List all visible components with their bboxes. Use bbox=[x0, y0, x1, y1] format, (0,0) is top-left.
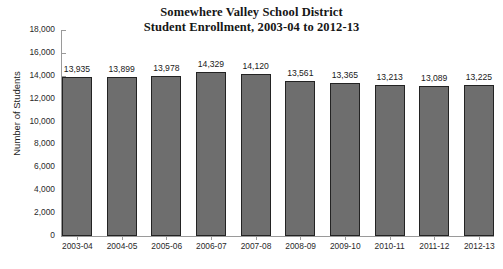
x-tick-mark bbox=[345, 236, 346, 240]
y-tick-label: 14,000 bbox=[29, 70, 55, 80]
y-tick-label: 10,000 bbox=[29, 116, 55, 126]
bar-slot: 13,213 bbox=[375, 30, 405, 236]
x-axis-tick-label: 2006-07 bbox=[196, 241, 226, 251]
y-tick-label: 18,000 bbox=[29, 24, 55, 34]
x-axis-tick-label: 2008-09 bbox=[285, 241, 315, 251]
x-tick-mark bbox=[256, 236, 257, 240]
x-tick-mark bbox=[77, 236, 78, 240]
bar-value-label: 14,329 bbox=[198, 59, 224, 69]
plot-area: 18,00016,00014,00012,00010,0008,0006,000… bbox=[62, 30, 494, 236]
y-tick-label: 8,000 bbox=[34, 138, 55, 148]
chart-title-line-1: Somewhere Valley School District bbox=[0, 5, 503, 20]
bar-series: 13,93513,89913,97814,32914,12013,56113,3… bbox=[62, 30, 494, 236]
bar-slot: 13,089 bbox=[419, 30, 449, 236]
x-tick-mark bbox=[300, 236, 301, 240]
bar[interactable] bbox=[107, 77, 137, 236]
y-tick-label: 0 bbox=[50, 230, 55, 240]
y-tick-label: 2,000 bbox=[34, 207, 55, 217]
y-tick-label: 16,000 bbox=[29, 47, 55, 57]
x-axis-tick-label: 2005-06 bbox=[151, 241, 181, 251]
bar-slot: 13,935 bbox=[62, 30, 92, 236]
x-axis-labels: 2003-042004-052005-062006-072007-082008-… bbox=[62, 241, 494, 251]
bar-slot: 13,561 bbox=[285, 30, 315, 236]
x-axis-tick-label: 2009-10 bbox=[330, 241, 360, 251]
y-tick-label: 4,000 bbox=[34, 184, 55, 194]
x-axis-tick-label: 2007-08 bbox=[241, 241, 271, 251]
bar-slot: 13,365 bbox=[330, 30, 360, 236]
x-tick-mark bbox=[166, 236, 167, 240]
y-tick-mark bbox=[62, 236, 66, 237]
x-axis-tick-label: 2010-11 bbox=[375, 241, 405, 251]
bar-value-label: 13,089 bbox=[421, 73, 447, 83]
bar[interactable] bbox=[375, 85, 405, 236]
x-tick-mark bbox=[479, 236, 480, 240]
bar[interactable] bbox=[196, 72, 226, 236]
bar-value-label: 13,978 bbox=[153, 63, 179, 73]
x-tick-mark bbox=[390, 236, 391, 240]
bar-value-label: 13,935 bbox=[64, 64, 90, 74]
x-tick-mark bbox=[211, 236, 212, 240]
x-axis-tick-label: 2012-13 bbox=[464, 241, 494, 251]
y-tick-label: 12,000 bbox=[29, 93, 55, 103]
bar-slot: 13,899 bbox=[107, 30, 137, 236]
bar-value-label: 14,120 bbox=[242, 61, 268, 71]
enrollment-bar-chart: Somewhere Valley School District Student… bbox=[0, 0, 503, 269]
y-axis-label: Number of Students bbox=[11, 54, 22, 174]
bar[interactable] bbox=[285, 81, 315, 236]
bar-value-label: 13,561 bbox=[287, 68, 313, 78]
x-axis-line bbox=[61, 236, 494, 237]
bar[interactable] bbox=[241, 74, 271, 236]
x-tick-mark bbox=[434, 236, 435, 240]
bar[interactable] bbox=[151, 76, 181, 236]
bar[interactable] bbox=[330, 83, 360, 236]
y-tick-label: 6,000 bbox=[34, 161, 55, 171]
bar-slot: 13,978 bbox=[151, 30, 181, 236]
bar-value-label: 13,213 bbox=[376, 72, 402, 82]
bar-value-label: 13,225 bbox=[466, 72, 492, 82]
bar-slot: 14,329 bbox=[196, 30, 226, 236]
bar[interactable] bbox=[419, 86, 449, 236]
x-axis-tick-label: 2003-04 bbox=[62, 241, 92, 251]
bar-value-label: 13,365 bbox=[332, 70, 358, 80]
bar[interactable] bbox=[62, 77, 92, 236]
bar-slot: 14,120 bbox=[241, 30, 271, 236]
bar[interactable] bbox=[464, 85, 494, 236]
x-axis-tick-label: 2004-05 bbox=[107, 241, 137, 251]
bar-value-label: 13,899 bbox=[109, 64, 135, 74]
x-axis-tick-label: 2011-12 bbox=[419, 241, 449, 251]
bar-slot: 13,225 bbox=[464, 30, 494, 236]
x-tick-mark bbox=[122, 236, 123, 240]
